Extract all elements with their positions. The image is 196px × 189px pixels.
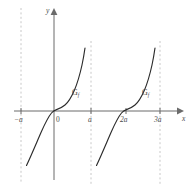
xtick-label-origin: 0 [56,116,60,124]
xtick-label-3a: 3a [154,116,162,124]
curve-label-1-sub: f [78,92,80,98]
curve-label-2-main: G [142,88,148,97]
curve-label-1: Gf [72,89,79,97]
xtick-label-neg-a: −a [14,116,23,124]
curve-label-2-sub: f [148,92,150,98]
curve-label-2: Gf [142,89,149,97]
xtick-label-2a: 2a [120,116,128,124]
curve-branch-2 [97,48,156,166]
curve-branch-1 [27,48,86,166]
x-axis-label: x [182,115,185,123]
y-axis-arrow-icon [51,8,58,15]
curve-label-1-main: G [72,88,78,97]
y-axis-label: y [46,7,49,15]
xtick-label-a: a [88,116,92,124]
graph-canvas [0,0,196,189]
graph-figure: y x −a 0 a 2a 3a Gf Gf [0,0,196,189]
